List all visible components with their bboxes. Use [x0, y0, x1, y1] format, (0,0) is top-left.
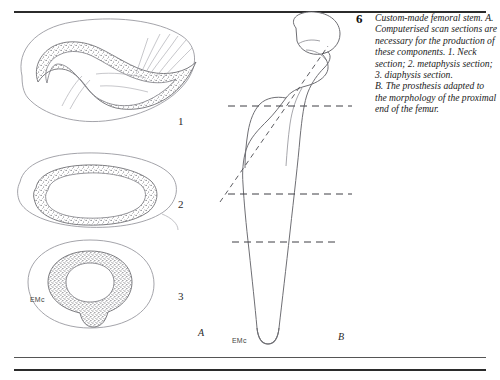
panel-label-a: A [198, 327, 204, 338]
femoral-head [293, 12, 340, 54]
figure-page: 6 Custom-made femoral stem. A. Computeri… [0, 0, 500, 380]
cross-section-neck [21, 19, 196, 122]
cross-section-diaphysis [28, 240, 154, 328]
prosthesis-stem-body [243, 52, 330, 344]
panel-b-prosthesis [210, 10, 370, 360]
figure-caption: Custom-made femoral stem. A. Computerise… [375, 12, 497, 115]
artist-signature-panel-b: EMc [232, 337, 247, 344]
artist-signature-panel-a: EMc [30, 296, 45, 303]
section-number-2: 2 [178, 198, 184, 210]
cross-section-metaphysis [18, 153, 178, 230]
section-number-3: 3 [178, 290, 184, 302]
panel-label-b: B [338, 331, 344, 342]
caption-line-1: Custom-made femoral stem. A. Computerise… [375, 12, 497, 80]
panel-a-cross-sections [0, 14, 200, 344]
bottom-rule-lower [14, 369, 486, 371]
metaphysis-aspera-ridge [162, 214, 178, 230]
caption-line-2: B. The prosthesis adapted to the morphol… [375, 80, 497, 114]
section-number-1: 1 [178, 115, 184, 127]
